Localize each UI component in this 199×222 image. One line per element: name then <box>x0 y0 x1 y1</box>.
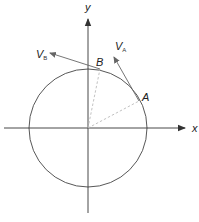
radius-to-a <box>88 101 139 128</box>
velocity-vector-b <box>50 53 100 69</box>
vector-a-label: VA <box>115 40 126 53</box>
radius-to-b <box>88 69 100 128</box>
x-axis-label: x <box>191 122 198 134</box>
y-axis-label: y <box>84 1 92 13</box>
vector-b-subscript: B <box>43 55 47 61</box>
velocity-vector-a <box>114 57 139 101</box>
point-b-label: B <box>96 56 103 68</box>
vector-a-subscript: A <box>122 47 126 53</box>
point-a-label: A <box>141 91 149 103</box>
vector-b-label: VB <box>36 48 47 61</box>
diagram-canvas: x y A B VA VB <box>0 0 199 222</box>
